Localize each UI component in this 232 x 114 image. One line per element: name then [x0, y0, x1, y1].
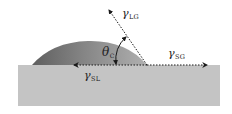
gamma-symbol: γ: [122, 7, 129, 20]
theta-symbol: θ: [102, 45, 109, 59]
gamma-sg-label: γSG: [168, 48, 185, 59]
gamma-lg-label: γLG: [122, 8, 139, 19]
theta-c-label: θC: [102, 46, 115, 58]
gamma-symbol: γ: [168, 47, 175, 60]
gamma-sl-label: γSL: [84, 70, 100, 81]
gamma-symbol: γ: [84, 69, 91, 82]
sg-subscript: SG: [175, 53, 185, 61]
sl-subscript: SL: [91, 75, 100, 83]
c-subscript: C: [110, 52, 115, 59]
liquid-droplet: [32, 41, 147, 65]
lg-subscript: LG: [129, 13, 139, 21]
solid-substrate: [18, 65, 220, 106]
diagram-canvas: [0, 0, 232, 114]
contact-angle-diagram: γLG γSG γSL θC: [0, 0, 232, 114]
